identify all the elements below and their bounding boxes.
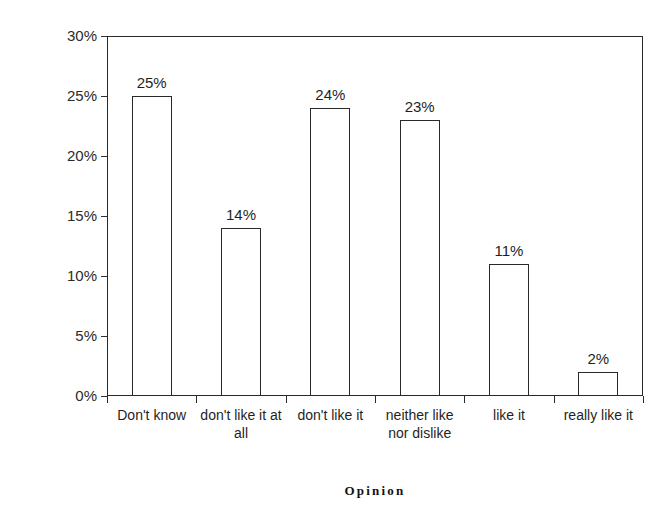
bar-value-label: 2% — [587, 351, 609, 366]
x-tick-mark — [554, 396, 555, 403]
x-category-label: like it — [464, 406, 553, 424]
bar-slot: 11% — [464, 36, 553, 396]
x-tick-mark — [107, 396, 108, 403]
bar-value-label: 14% — [226, 207, 256, 222]
x-tick-mark — [643, 396, 644, 403]
y-tick-label: 30% — [51, 28, 97, 43]
x-category-label: don't like it — [286, 406, 375, 424]
bar[interactable] — [489, 264, 529, 396]
x-tick-mark — [286, 396, 287, 403]
x-category-label: really like it — [554, 406, 643, 424]
bar-slot: 2% — [554, 36, 643, 396]
bar-value-label: 23% — [405, 99, 435, 114]
y-tick-label: 25% — [51, 88, 97, 103]
bar-slot: 24% — [286, 36, 375, 396]
bar-value-label: 24% — [315, 87, 345, 102]
x-category-label: don't like it at all — [196, 406, 285, 442]
x-axis-category-labels: Don't knowdon't like it at alldon't like… — [107, 406, 643, 470]
bar[interactable] — [578, 372, 618, 396]
bar[interactable] — [132, 96, 172, 396]
y-tick-label: 10% — [51, 268, 97, 283]
bar[interactable] — [400, 120, 440, 396]
y-axis-tick-labels: 0%5%10%15%20%25%30% — [51, 0, 97, 522]
x-category-label: Don't know — [107, 406, 196, 424]
bars-layer: 25%14%24%23%11%2% — [107, 36, 643, 396]
x-tick-mark — [196, 396, 197, 403]
y-tick-label: 20% — [51, 148, 97, 163]
x-category-label: neither like nor dislike — [375, 406, 464, 442]
bar-value-label: 25% — [137, 75, 167, 90]
x-tick-mark — [464, 396, 465, 403]
bar[interactable] — [221, 228, 261, 396]
chart-title-clipped — [0, 0, 668, 3]
bar[interactable] — [310, 108, 350, 396]
x-axis-title: Opinion — [107, 483, 643, 499]
y-tick-label: 15% — [51, 208, 97, 223]
bar-slot: 14% — [196, 36, 285, 396]
bar-value-label: 11% — [495, 243, 524, 258]
y-tick-label: 0% — [51, 388, 97, 403]
bar-slot: 23% — [375, 36, 464, 396]
y-tick-label: 5% — [51, 328, 97, 343]
bar-slot: 25% — [107, 36, 196, 396]
x-tick-mark — [375, 396, 376, 403]
